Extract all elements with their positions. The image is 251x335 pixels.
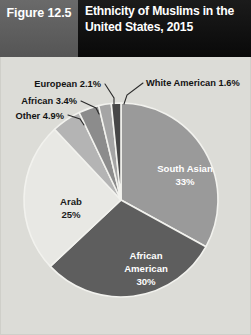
figure-title: Ethnicity of Muslims in the United State…	[78, 0, 251, 57]
slice-label-arab-name: Arab	[60, 196, 82, 207]
slice-label-african-american-line2: American	[124, 263, 168, 274]
credit-block: Source: Pew Research Center	[240, 151, 251, 331]
callout-label-white-american: White American 1.6%	[146, 78, 240, 88]
leader-line-european	[105, 84, 114, 104]
slice-label-south-asian-name: South Asian	[157, 163, 213, 174]
slice-label-south-asian-value: 33%	[175, 176, 195, 187]
slice-label-african-american-line1: African	[129, 250, 162, 261]
leader-line-white-american	[124, 83, 143, 104]
callout-label-european: European 2.1%	[34, 79, 101, 89]
figure-header: Figure 12.5 Ethnicity of Muslims in the …	[0, 0, 251, 57]
callout-label-african: African 3.4%	[21, 96, 78, 106]
pie-slices	[24, 103, 218, 297]
figure-container: Figure 12.5 Ethnicity of Muslims in the …	[0, 0, 251, 335]
callout-label-other: Other 4.9%	[15, 111, 64, 121]
pie-chart: South Asian 33% African American 30% Ara…	[0, 57, 251, 335]
figure-number-label: Figure 12.5	[7, 6, 72, 20]
figure-number-block: Figure 12.5	[0, 0, 78, 57]
slice-label-arab-value: 25%	[61, 209, 81, 220]
slice-label-african-american-value: 30%	[136, 276, 156, 287]
